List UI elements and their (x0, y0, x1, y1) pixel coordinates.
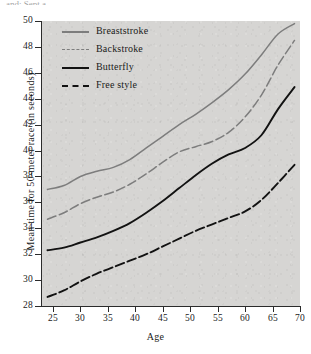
legend-label: Breaststroke (96, 25, 148, 37)
series-line-free-style (47, 165, 294, 297)
legend-label: Backstroke (96, 43, 143, 55)
legend-swatch-icon (62, 31, 89, 33)
x-tick-mark (218, 307, 219, 312)
x-tick-mark (53, 307, 54, 312)
y-tick-mark (35, 125, 41, 126)
y-tick-mark (35, 176, 41, 177)
x-tick-mark (245, 307, 246, 312)
legend-swatch-icon (62, 49, 89, 50)
y-tick-mark (35, 202, 41, 203)
y-axis-title: Mean time for 50-meter race (in seconds) (25, 12, 36, 312)
y-tick-mark (35, 306, 41, 307)
series-curves (42, 21, 300, 306)
plot-area (42, 21, 300, 306)
x-tick-label: 50 (178, 314, 202, 324)
swimming-times-line-chart: and: Sept a 283032343638404244464850 253… (0, 0, 311, 354)
x-tick-label: 60 (233, 314, 257, 324)
x-tick-label: 35 (96, 314, 120, 324)
y-tick-mark (35, 99, 41, 100)
x-tick-mark (190, 307, 191, 312)
legend-swatch-icon (62, 67, 89, 69)
y-tick-mark (35, 73, 41, 74)
y-tick-mark (35, 280, 41, 281)
legend-label: Butterfly (96, 61, 134, 73)
legend-swatch-icon (62, 85, 89, 87)
x-tick-mark (300, 307, 301, 312)
x-tick-label: 70 (288, 314, 311, 324)
clipped-header-text: and: Sept a (6, 0, 126, 5)
x-tick-mark (135, 307, 136, 312)
series-line-butterfly (47, 87, 294, 250)
y-tick-mark (35, 228, 41, 229)
x-tick-mark (108, 307, 109, 312)
y-axis-line (41, 21, 42, 307)
x-tick-label: 65 (261, 314, 285, 324)
x-tick-mark (273, 307, 274, 312)
x-tick-label: 45 (151, 314, 175, 324)
y-tick-mark (35, 254, 41, 255)
x-axis-title: Age (0, 331, 311, 342)
y-tick-mark (35, 21, 41, 22)
x-tick-mark (80, 307, 81, 312)
x-tick-label: 40 (123, 314, 147, 324)
x-tick-label: 25 (41, 314, 65, 324)
x-tick-label: 30 (68, 314, 92, 324)
y-tick-mark (35, 151, 41, 152)
x-tick-mark (163, 307, 164, 312)
y-tick-mark (35, 47, 41, 48)
legend-label: Free style (96, 79, 137, 91)
x-tick-label: 55 (206, 314, 230, 324)
